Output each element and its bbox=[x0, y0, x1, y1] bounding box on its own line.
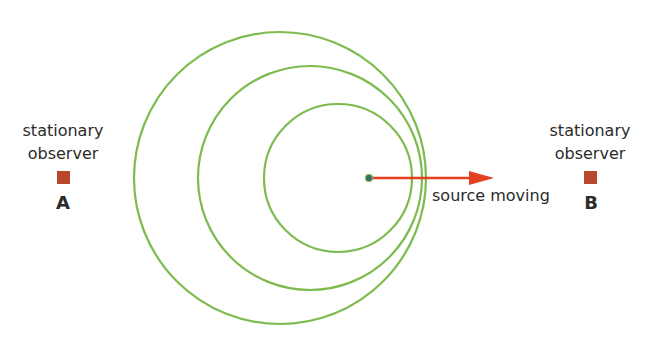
observer-b-label: stationary observer bbox=[545, 121, 635, 164]
source-motion-arrowhead-icon bbox=[469, 171, 494, 185]
observer-a-line1: stationary bbox=[18, 121, 108, 141]
observer-b-marker bbox=[584, 171, 597, 184]
observer-b-line1: stationary bbox=[545, 121, 635, 141]
observer-a-letter: A bbox=[53, 192, 73, 213]
source-dot bbox=[366, 175, 373, 182]
doppler-diagram bbox=[0, 0, 666, 345]
observer-a-marker bbox=[57, 171, 70, 184]
observer-b-letter: B bbox=[581, 192, 601, 213]
observer-a-label: stationary observer bbox=[18, 121, 108, 164]
observer-a-line2: observer bbox=[18, 144, 108, 164]
observer-b-line2: observer bbox=[545, 144, 635, 164]
source-moving-label: source moving bbox=[432, 186, 550, 206]
